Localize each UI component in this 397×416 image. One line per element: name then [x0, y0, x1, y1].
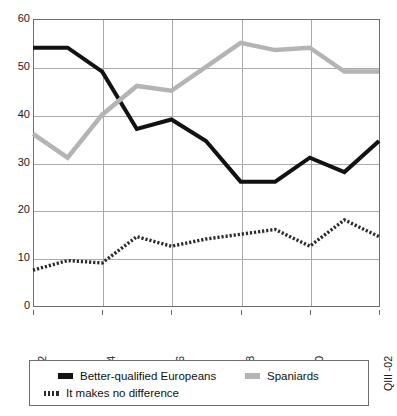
chart-legend: Better-qualified EuropeansSpaniardsIt ma…: [29, 360, 369, 406]
x-axis-tick: [310, 310, 311, 315]
legend-item: Spaniards: [245, 368, 319, 384]
series-layer: [33, 19, 380, 307]
y-axis-tick-label: 60: [4, 13, 30, 24]
legend-label: Spaniards: [267, 370, 319, 383]
legend-label: Better-qualified Europeans: [80, 370, 216, 383]
y-axis-tick-label: 40: [4, 109, 30, 120]
legend-swatch-icon: [245, 373, 260, 379]
y-axis-tick-label: 10: [4, 252, 30, 263]
x-axis-tick: [33, 310, 34, 315]
y-axis-tick-label: 50: [4, 61, 30, 72]
legend-label: It makes no difference: [66, 387, 179, 400]
legend-swatch-icon: [44, 391, 59, 396]
line-chart: 0102030405060 QI-92QI-94QIV-96QIV-98QIV …: [0, 0, 397, 416]
x-axis-tick: [241, 310, 242, 315]
legend-item: It makes no difference: [44, 385, 179, 401]
x-axis-tick: [379, 310, 380, 315]
y-axis-tick-label: 30: [4, 157, 30, 168]
x-axis: QI-92QI-94QIV-96QIV-98QIV -00QIII -02: [0, 310, 397, 358]
x-axis-tick: [102, 310, 103, 315]
x-axis-tick-label: QIII -02: [383, 356, 394, 391]
y-axis-tick-label: 20: [4, 204, 30, 215]
legend-item: Better-qualified Europeans: [58, 368, 216, 384]
x-axis-tick: [171, 310, 172, 315]
series-line-3: [33, 220, 379, 270]
legend-swatch-icon: [58, 373, 73, 379]
